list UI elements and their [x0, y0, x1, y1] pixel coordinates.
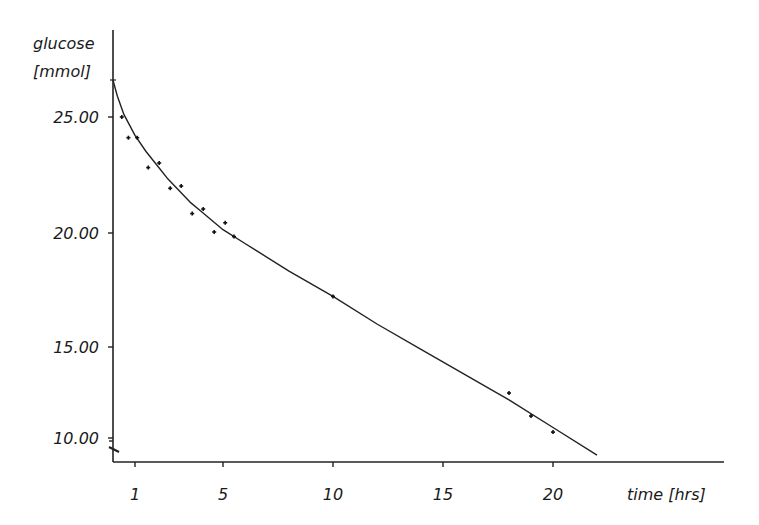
y-axis-label-line1: glucose [33, 34, 95, 53]
x-axis-label: time [hrs] [627, 485, 706, 504]
y-tick-label: 10.00 [53, 429, 99, 448]
x-tick-label: 1 [130, 485, 140, 504]
y-tick-label: 25.00 [53, 108, 99, 127]
x-tick-label: 20 [543, 485, 563, 504]
fitted-curve [113, 80, 597, 455]
fit-line [113, 80, 597, 455]
data-point-marker [223, 221, 227, 225]
data-point-marker [146, 166, 150, 170]
ticks: 25.0020.0015.0010.0015101520 [53, 108, 563, 504]
y-tick-label: 20.00 [53, 224, 99, 243]
data-point-marker [168, 186, 172, 190]
data-point-marker [212, 230, 216, 234]
data-point-marker [507, 391, 511, 395]
axes [109, 30, 724, 462]
x-tick-label: 5 [218, 485, 228, 504]
glucose-time-chart: 25.0020.0015.0010.0015101520 glucose [mm… [0, 0, 759, 525]
axis-break-mark [109, 447, 119, 452]
data-point-marker [179, 184, 183, 188]
data-point-marker [157, 161, 161, 165]
data-point-marker [551, 430, 555, 434]
data-point-marker [201, 207, 205, 211]
data-points [120, 115, 555, 434]
data-point-marker [190, 212, 194, 216]
y-tick-label: 15.00 [53, 338, 99, 357]
y-axis-label-line2: [mmol] [33, 62, 91, 81]
x-tick-label: 15 [433, 485, 453, 504]
data-point-marker [120, 115, 124, 119]
data-point-marker [126, 136, 130, 140]
x-tick-label: 10 [323, 485, 343, 504]
